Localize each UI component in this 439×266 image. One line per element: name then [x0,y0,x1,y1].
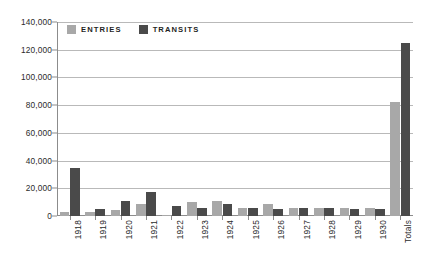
x-axis-tick-mark [95,216,96,220]
x-axis: 1918191919201921192219231924192519261927… [57,218,413,266]
bar-transits-1926 [273,209,283,216]
bar-entries-1927 [289,208,299,216]
legend-swatch-icon [67,25,76,34]
bar-group [111,22,131,216]
bar-entries-1929 [340,208,350,216]
x-axis-tick-mark [273,216,274,220]
x-axis-tick-mark [146,216,147,220]
bar-transits-1923 [197,208,207,216]
bar-transits-1927 [299,208,309,216]
x-axis-tick-label: 1922 [175,220,185,239]
bar-group [340,22,360,216]
x-axis-tick-label: 1923 [200,220,210,239]
y-axis-tick-label: 100,000 [0,72,52,82]
y-axis-tick-label: 20,000 [0,183,52,193]
bar-entries-1926 [263,204,273,216]
y-axis-tick-label: 0 [0,211,52,221]
bar-transits-1920 [121,201,131,216]
bar-transits-1924 [223,204,233,216]
x-axis-tick-mark [222,216,223,220]
x-axis-tick-mark [324,216,325,220]
y-axis-tick-label: 60,000 [0,128,52,138]
x-axis-tick-label: 1920 [124,220,134,239]
x-axis-tick-mark [248,216,249,220]
x-axis-tick-label: 1930 [378,220,388,239]
bar-group [85,22,105,216]
x-axis-tick-mark [197,216,198,220]
bar-group [162,22,182,216]
x-axis-tick-mark [349,216,350,220]
x-axis-tick-mark [299,216,300,220]
chart-legend: ENTRIESTRANSITS [67,25,199,34]
bar-entries-1924 [212,201,222,216]
legend-label: TRANSITS [153,25,200,34]
bar-entries-1921 [136,204,146,216]
y-axis-tick-label: 40,000 [0,156,52,166]
x-axis-tick-mark [400,216,401,220]
bar-entries-totals [390,102,400,216]
bar-group [187,22,207,216]
bar-entries-1922 [162,215,172,216]
bar-transits-1925 [248,208,258,216]
y-axis-tick-label: 140,000 [0,17,52,27]
bars-layer [57,22,413,216]
bar-group [314,22,334,216]
bar-transits-1930 [375,209,385,216]
y-axis-tick-label: 120,000 [0,45,52,55]
x-axis-tick-mark [171,216,172,220]
legend-item-transits[interactable]: TRANSITS [139,25,200,34]
x-axis-tick-label: 1921 [149,220,159,239]
x-axis-tick-label: 1924 [225,220,235,239]
bar-transits-1919 [95,209,105,216]
x-axis-tick-label: 1927 [302,220,312,239]
bar-group [365,22,385,216]
bar-entries-1919 [85,212,95,216]
bar-transits-1929 [350,209,360,216]
x-axis-tick-label: 1919 [98,220,108,239]
bar-group [136,22,156,216]
bar-group [390,22,410,216]
bar-transits-1918 [70,168,80,216]
bar-chart: 020,00040,00060,00080,000100,000120,0001… [0,0,439,266]
x-axis-tick-label: 1926 [276,220,286,239]
bar-group [289,22,309,216]
bar-transits-1928 [324,208,334,216]
x-axis-tick-mark [70,216,71,220]
bar-transits-1921 [146,192,156,216]
y-axis-tick-label: 80,000 [0,100,52,110]
x-axis-tick-mark [375,216,376,220]
bar-group [212,22,232,216]
x-axis-tick-label: 1929 [353,220,363,239]
bar-entries-1920 [111,210,121,216]
bar-entries-1923 [187,202,197,216]
x-axis-tick-label: 1918 [73,220,83,239]
x-axis-tick-label: Totals [403,220,413,243]
legend-swatch-icon [139,25,148,34]
x-axis-tick-label: 1925 [251,220,261,239]
bar-group [238,22,258,216]
bar-transits-1922 [172,206,182,216]
bar-entries-1930 [365,208,375,216]
bar-entries-1925 [238,208,248,216]
x-axis-tick-mark [121,216,122,220]
bar-entries-1928 [314,208,324,216]
bar-entries-1918 [60,212,70,216]
legend-label: ENTRIES [81,25,122,34]
legend-item-entries[interactable]: ENTRIES [67,25,122,34]
bar-group [60,22,80,216]
x-axis-tick-label: 1928 [327,220,337,239]
bar-transits-totals [401,43,411,216]
bar-group [263,22,283,216]
